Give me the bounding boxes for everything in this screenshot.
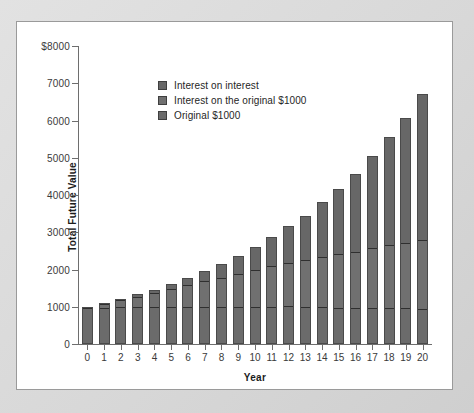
bar[interactable] [250, 247, 261, 344]
y-axis-tick-label: 2000 [47, 264, 70, 275]
bar-segment-interest-on-interest [217, 265, 226, 278]
bar-slot [99, 46, 110, 344]
bar[interactable] [182, 278, 193, 344]
y-axis-tick [72, 344, 79, 345]
bar[interactable] [300, 216, 311, 345]
x-axis-tick [205, 345, 206, 350]
bar[interactable] [216, 264, 227, 344]
bar-segment-original [301, 307, 310, 343]
legend-swatch-icon [158, 81, 167, 90]
chart-legend: Interest on interestInterest on the orig… [158, 80, 307, 121]
x-axis-tick-label: 13 [300, 352, 311, 363]
x-axis-tick [171, 345, 172, 350]
legend-item-label: Interest on the original $1000 [174, 95, 307, 106]
bar[interactable] [166, 284, 177, 344]
bar-segment-original [217, 307, 226, 343]
x-axis-tick [238, 345, 239, 350]
x-axis-tick-label: 1 [101, 352, 107, 363]
y-axis-tick [72, 195, 79, 196]
bar-segment-interest-on-interest [385, 138, 394, 245]
x-axis-tick-label: 11 [267, 352, 277, 363]
bar[interactable] [199, 271, 210, 344]
y-axis-tick [72, 270, 79, 271]
bar-segment-original [385, 308, 394, 343]
chart-panel: Total Future Value 010002000300040005000… [16, 21, 453, 390]
y-axis-tick-label: 4000 [47, 190, 70, 201]
bar[interactable] [149, 290, 160, 344]
x-axis-tick-label: 10 [249, 352, 260, 363]
x-axis-tick [372, 345, 373, 350]
bar-slot [367, 46, 378, 344]
bar[interactable] [384, 137, 395, 344]
bar[interactable] [333, 189, 344, 344]
bar[interactable] [82, 307, 93, 344]
bar-segment-original [83, 308, 92, 343]
bar-segment-original [116, 307, 125, 343]
y-axis-tick-label: 0 [64, 339, 70, 350]
bar[interactable] [99, 303, 110, 344]
legend-item[interactable]: Interest on the original $1000 [158, 95, 307, 106]
bar-segment-interest-on-interest [284, 227, 293, 263]
bar-segment-original [334, 308, 343, 343]
x-axis-tick-label: 9 [235, 352, 241, 363]
y-axis-tick-label: 5000 [47, 152, 70, 163]
bar[interactable] [350, 174, 361, 344]
x-axis-tick [406, 345, 407, 350]
bar[interactable] [115, 299, 126, 344]
x-axis-tick [356, 345, 357, 350]
x-axis-tick [272, 345, 273, 350]
bar-segment-interest-on-interest [334, 190, 343, 254]
x-axis-tick-label: 5 [168, 352, 174, 363]
bar[interactable] [233, 256, 244, 344]
bar-segment-original [133, 307, 142, 343]
bar[interactable] [283, 226, 294, 344]
x-axis-tick-label: 2 [118, 352, 124, 363]
x-axis-tick [305, 345, 306, 350]
bar-slot [132, 46, 143, 344]
legend-item[interactable]: Interest on interest [158, 80, 307, 91]
bar-slot [400, 46, 411, 344]
y-axis-tick [72, 307, 79, 308]
x-axis-title: Year [79, 372, 431, 383]
bar-segment-original [284, 306, 293, 343]
bar-segment-interest-on-original [301, 260, 310, 307]
bar[interactable] [417, 94, 428, 344]
bar[interactable] [132, 294, 143, 344]
bar-segment-interest-on-original [368, 248, 377, 308]
bar-segment-original [267, 307, 276, 344]
x-axis-tick [221, 345, 222, 350]
bar-segment-interest-on-interest [318, 203, 327, 257]
bar-slot [384, 46, 395, 344]
y-axis-tick [72, 121, 79, 122]
x-axis-tick [423, 345, 424, 350]
bar-segment-interest-on-interest [267, 238, 276, 267]
x-axis-tick [255, 345, 256, 350]
x-axis-tick-label: 20 [417, 352, 428, 363]
bar[interactable] [400, 118, 411, 344]
legend-item-label: Interest on interest [174, 80, 259, 91]
x-axis-tick-label: 18 [384, 352, 395, 363]
bar[interactable] [367, 156, 378, 344]
x-axis-tick-label: 4 [152, 352, 158, 363]
legend-item[interactable]: Original $1000 [158, 110, 307, 121]
y-axis-tick [72, 83, 79, 84]
bar-segment-interest-on-interest [251, 248, 260, 270]
x-axis-tick [154, 345, 155, 350]
bar-segment-interest-on-original [150, 293, 159, 307]
bar[interactable] [317, 202, 328, 344]
bar-segment-interest-on-original [234, 274, 243, 307]
y-axis-tick-label: 1000 [47, 301, 70, 312]
x-axis-tick-label: 14 [316, 352, 327, 363]
y-axis-tick-label: 7000 [47, 78, 70, 89]
bar-segment-interest-on-interest [234, 257, 243, 274]
bar-segment-original [150, 307, 159, 343]
bar[interactable] [266, 237, 277, 344]
bar-segment-interest-on-original [251, 270, 260, 306]
x-axis-tick-label: 16 [350, 352, 361, 363]
y-axis-tick-label: 6000 [47, 115, 70, 126]
bar-segment-interest-on-original [401, 243, 410, 309]
x-axis-tick [322, 345, 323, 350]
y-axis-tick-label: $8000 [41, 41, 70, 52]
bar-segment-interest-on-interest [351, 175, 360, 251]
bar-segment-original [251, 307, 260, 343]
